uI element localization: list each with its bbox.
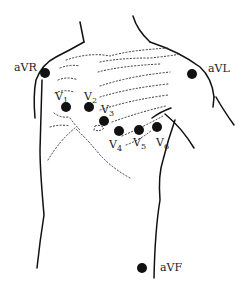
electrode-v6-dot [152,122,162,132]
electrode-v5-dot [134,125,144,135]
label-v6-sub: 6 [164,142,169,151]
electrode-avf-dot [137,263,147,273]
label-v1: V1 [55,91,68,105]
label-v5-sub: 5 [141,142,146,151]
label-v5-letter: V [133,136,141,149]
label-v5: V5 [133,137,146,151]
label-avf: aVF [160,262,182,273]
label-v3-letter: V [101,103,109,116]
label-v3: V3 [101,104,114,118]
label-v6: V6 [156,137,169,151]
torso-outline [0,0,249,293]
electrode-avr-dot [40,68,50,78]
label-v2: V2 [84,91,97,105]
label-v1-sub: 1 [63,96,68,105]
electrode-v4-dot [114,126,124,136]
electrode-avl-dot [187,69,197,79]
label-v3-sub: 3 [109,109,114,118]
label-v4-letter: V [109,138,117,151]
label-v2-letter: V [84,90,92,103]
label-v4-sub: 4 [117,144,122,153]
ecg-lead-diagram: aVR aVL aVF V1 V2 V3 V4 V5 V6 [0,0,249,293]
label-avr: aVR [14,62,37,73]
label-v4: V4 [109,139,122,153]
label-v6-letter: V [156,136,164,149]
label-v2-sub: 2 [92,96,97,105]
label-v1-letter: V [55,90,63,103]
label-avl: aVL [208,63,230,74]
